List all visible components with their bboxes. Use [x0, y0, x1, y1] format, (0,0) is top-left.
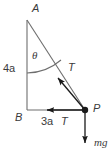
angle-label-theta: θ [32, 50, 37, 61]
dimension-label-vertical-leg: 4a [3, 63, 15, 74]
diagram-canvas [0, 0, 110, 154]
free-body-diagram: A B P 4a 3a θ T T mg [0, 0, 110, 154]
triangle-side-AP [27, 20, 85, 110]
angle-arc-theta [27, 60, 61, 73]
force-label-tension-horizontal: T [61, 116, 68, 127]
force-label-weight: mg [94, 137, 107, 148]
force-label-tension-diagonal: T [68, 62, 75, 73]
dimension-label-horizontal-leg: 3a [41, 116, 53, 127]
vertex-label-B: B [15, 112, 22, 123]
force-vector-tension-diagonal [58, 78, 85, 110]
vertex-label-A: A [32, 3, 39, 14]
vertex-label-P: P [93, 103, 100, 114]
point-P-marker [82, 107, 88, 113]
